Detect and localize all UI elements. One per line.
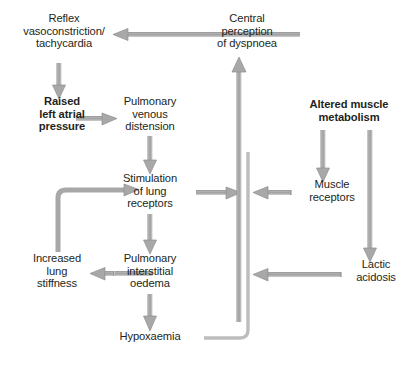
node-lactic-acidosis: Lactic acidosis — [348, 258, 404, 283]
node-raised-left-atrial-pressure: Raised left atrial pressure — [20, 95, 104, 133]
node-central-perception-of-dyspnoea: Central perception of dyspnoea — [207, 12, 287, 50]
edge-altered-to-muscle-receptors — [317, 130, 330, 182]
edge-pulmonary-venous-to-stimulation — [144, 136, 157, 174]
edge-muscle-receptors-to-trunk — [253, 187, 292, 200]
node-stimulation-of-lung-receptors: Stimulation of lung receptors — [110, 172, 190, 210]
node-increased-lung-stiffness: Increased lung stiffness — [18, 252, 96, 290]
node-altered-muscle-metabolism: Altered muscle metabolism — [296, 98, 402, 123]
node-hypoxaemia: Hypoxaemia — [100, 330, 200, 343]
edge-lactic-to-trunk — [253, 269, 342, 282]
edge-stimulation-to-trunk — [196, 187, 241, 199]
edge-reflex-to-raised — [53, 63, 66, 99]
node-reflex-vasoconstriction: Reflex vasoconstriction/ tachycardia — [6, 12, 122, 50]
edge-stimulation-to-interstitial — [144, 214, 157, 254]
node-muscle-receptors: Muscle receptors — [296, 178, 368, 203]
node-pulmonary-venous-distension: Pulmonary venous distension — [112, 95, 188, 133]
dyspnoea-flow-diagram: Reflex vasoconstriction/ tachycardia Rai… — [0, 0, 407, 369]
edge-trunk-to-central — [232, 57, 246, 322]
node-pulmonary-interstitial-oedema: Pulmonary interstitial oedema — [110, 252, 190, 290]
edge-interstitial-to-hypoxaemia — [144, 294, 157, 331]
